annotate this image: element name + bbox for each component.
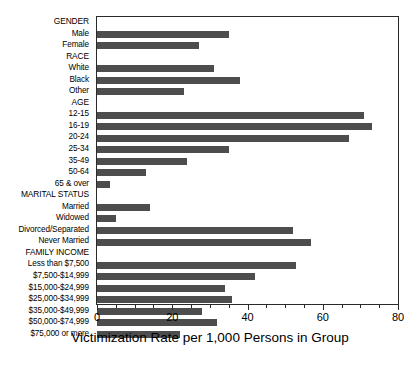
x-tick-label: 80 — [392, 311, 404, 323]
bar — [97, 273, 255, 280]
x-tick-label: 20 — [166, 311, 178, 323]
bar-row — [97, 294, 398, 306]
bar — [97, 204, 150, 211]
bar-row — [97, 259, 398, 271]
bar — [97, 181, 110, 188]
category-group-heading: FAMILY INCOME — [0, 247, 93, 259]
category-label: 20-24 — [0, 131, 93, 143]
category-label: Less than $7,500 — [0, 258, 93, 270]
category-label: $15,000-$24,999 — [0, 282, 93, 294]
bar — [97, 285, 225, 292]
bar-row — [97, 121, 398, 133]
x-tick-major — [97, 305, 98, 310]
category-label: 35-49 — [0, 155, 93, 167]
category-group-heading: MARITAL STATUS — [0, 189, 93, 201]
bar — [97, 123, 372, 130]
x-tick-minor — [153, 305, 154, 308]
bar — [97, 31, 229, 38]
plot-area — [96, 16, 399, 305]
category-label: $7,500-$14,999 — [0, 270, 93, 282]
category-label: 12-15 — [0, 108, 93, 120]
bar — [97, 65, 214, 72]
x-tick-major — [323, 305, 324, 310]
bar-row — [97, 236, 398, 248]
bar — [97, 88, 184, 95]
bar-row — [97, 167, 398, 179]
bar-row — [97, 190, 398, 202]
bar — [97, 239, 311, 246]
bar — [97, 112, 364, 119]
category-labels-axis: GENDERMaleFemaleRACEWhiteBlackOtherAGE12… — [0, 16, 93, 339]
bar-row — [97, 213, 398, 225]
bar-row — [97, 109, 398, 121]
category-label: Married — [0, 201, 93, 213]
x-tick-major — [398, 305, 399, 310]
category-label: 50-64 — [0, 166, 93, 178]
bar — [97, 227, 293, 234]
x-tick-minor — [135, 305, 136, 308]
category-label: Male — [0, 28, 93, 40]
bar-row — [97, 17, 398, 29]
category-group-heading: AGE — [0, 97, 93, 109]
bar-row — [97, 156, 398, 168]
bar — [97, 77, 240, 84]
bar-row — [97, 86, 398, 98]
x-tick-minor — [379, 305, 380, 308]
category-label: Other — [0, 85, 93, 97]
bar — [97, 262, 296, 269]
x-tick-label: 60 — [317, 311, 329, 323]
x-tick-minor — [285, 305, 286, 308]
category-label: 16-19 — [0, 120, 93, 132]
bar-row — [97, 271, 398, 283]
category-label: White — [0, 62, 93, 74]
bar — [97, 42, 199, 49]
x-tick-minor — [304, 305, 305, 308]
bar-row — [97, 75, 398, 87]
category-label: $25,000-$34,999 — [0, 293, 93, 305]
category-group-heading: RACE — [0, 51, 93, 63]
bar-row — [97, 52, 398, 64]
bar-row — [97, 248, 398, 260]
bar-row — [97, 132, 398, 144]
x-tick-minor — [266, 305, 267, 308]
bar-row — [97, 144, 398, 156]
category-label: Never Married — [0, 235, 93, 247]
category-label: Black — [0, 74, 93, 86]
bar-row — [97, 63, 398, 75]
category-group-heading: GENDER — [0, 16, 93, 28]
category-label: Female — [0, 39, 93, 51]
bar — [97, 135, 349, 142]
x-tick-minor — [229, 305, 230, 308]
bar — [97, 296, 232, 303]
category-label: 25-34 — [0, 143, 93, 155]
bar-row — [97, 202, 398, 214]
x-tick-minor — [116, 305, 117, 308]
bar — [97, 169, 146, 176]
x-tick-label: 40 — [241, 311, 253, 323]
x-axis-tick-labels: 020406080 — [0, 311, 420, 325]
bar-row — [97, 98, 398, 110]
bar-row — [97, 40, 398, 52]
victimization-rate-bar-chart: GENDERMaleFemaleRACEWhiteBlackOtherAGE12… — [0, 0, 420, 370]
category-label: Widowed — [0, 212, 93, 224]
x-axis-title: Victimization Rate per 1,000 Persons in … — [0, 330, 420, 345]
x-tick-label: 0 — [94, 311, 100, 323]
x-tick-minor — [360, 305, 361, 308]
bar-row — [97, 29, 398, 41]
bar — [97, 146, 229, 153]
category-label: Divorced/Separated — [0, 224, 93, 236]
bar — [97, 158, 187, 165]
x-tick-major — [172, 305, 173, 310]
bar-row — [97, 283, 398, 295]
bar-row — [97, 179, 398, 191]
category-label: 65 & over — [0, 178, 93, 190]
x-tick-minor — [342, 305, 343, 308]
x-tick-minor — [191, 305, 192, 308]
x-tick-minor — [210, 305, 211, 308]
bar-row — [97, 225, 398, 237]
x-tick-major — [248, 305, 249, 310]
bar — [97, 215, 116, 222]
